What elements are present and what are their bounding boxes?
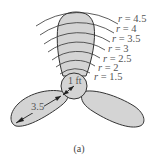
figure-caption: (a): [0, 143, 158, 154]
blade-length-label: 3.5: [31, 102, 44, 113]
radius-label: r = 1.5: [94, 72, 122, 83]
hub-label: 1 ft: [68, 76, 82, 86]
propeller-figure: 1 ft 3.5 r = 4.5 r = 4 r = 3.5 r = 3 r =…: [0, 0, 158, 164]
right-blade: [82, 91, 144, 127]
